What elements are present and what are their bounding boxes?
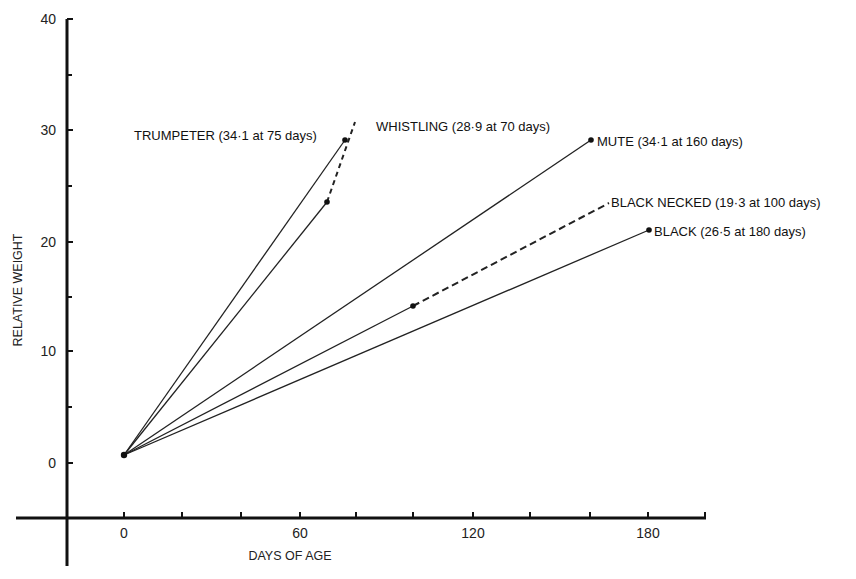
swan-growth-chart: 0 10 20 30 40 0 60 120 180 DAYS OF AGE R… xyxy=(0,0,856,579)
marker-black-necked xyxy=(410,303,416,309)
x-tick-label: 120 xyxy=(461,525,485,541)
y-tick-label: 30 xyxy=(40,122,56,138)
label-trumpeter: TRUMPETER (34·1 at 75 days) xyxy=(134,128,317,143)
series-line-black-necked-extrapolated xyxy=(413,203,609,306)
label-black-necked: BLACK NECKED (19·3 at 100 days) xyxy=(611,195,821,210)
x-tick-label: 60 xyxy=(292,525,308,541)
y-axis-title: RELATIVE WEIGHT xyxy=(11,233,25,346)
series-line-black-necked xyxy=(124,306,413,455)
series-line-mute xyxy=(124,140,591,455)
label-whistling: WHISTLING (28·9 at 70 days) xyxy=(376,119,550,134)
series-line-whistling xyxy=(124,202,327,455)
series-line-whistling-extrapolated xyxy=(327,122,355,202)
marker-trumpeter xyxy=(342,137,348,143)
label-black: BLACK (26·5 at 180 days) xyxy=(654,224,806,239)
y-tick-label: 10 xyxy=(40,343,56,359)
y-tick-label: 0 xyxy=(48,455,56,471)
marker-whistling xyxy=(324,199,330,205)
y-tick-label: 20 xyxy=(40,234,56,250)
marker-black xyxy=(646,227,652,233)
y-tick-label: 40 xyxy=(40,11,56,27)
x-tick-label: 0 xyxy=(120,525,128,541)
x-tick-label: 180 xyxy=(636,525,660,541)
x-axis-title: DAYS OF AGE xyxy=(248,549,331,563)
origin-marker xyxy=(121,452,127,458)
label-mute: MUTE (34·1 at 160 days) xyxy=(597,134,743,149)
marker-mute xyxy=(588,137,594,143)
